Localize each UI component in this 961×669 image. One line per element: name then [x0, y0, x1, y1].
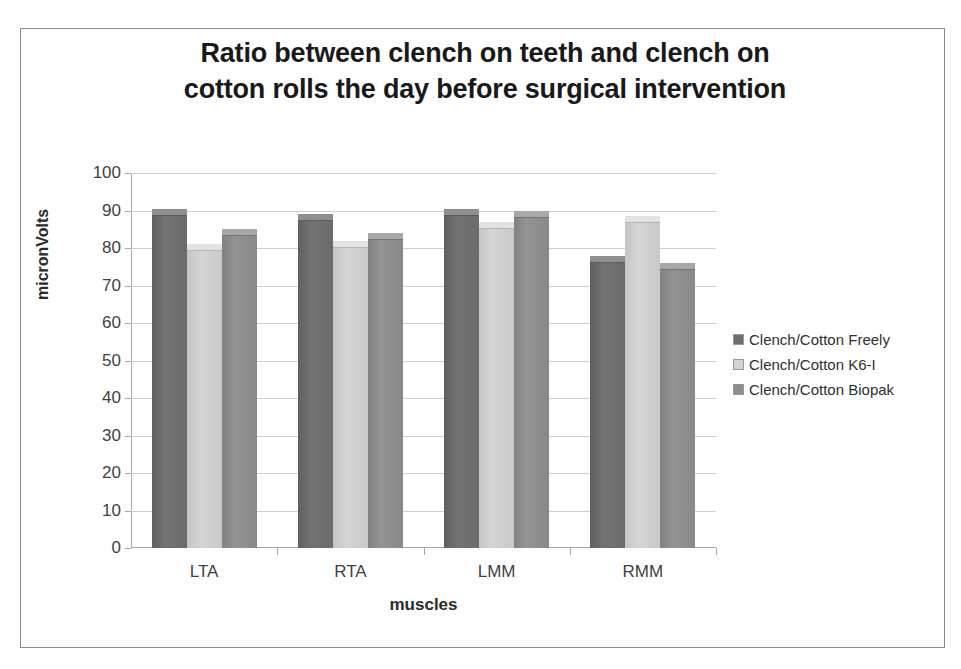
y-axis-tick-label: 10: [102, 501, 121, 521]
y-axis-tick-label: 40: [102, 388, 121, 408]
bar-group: [131, 173, 277, 548]
bar: [298, 214, 333, 548]
legend-label: Clench/Cotton K6-I: [749, 357, 876, 372]
bar-top-cap: [298, 214, 333, 221]
legend-swatch-icon: [733, 359, 744, 370]
bar-body: [660, 268, 695, 548]
y-axis-tick-label: 100: [93, 163, 121, 183]
x-axis-tick: [570, 548, 571, 555]
x-axis-tick: [424, 548, 425, 555]
legend-swatch-icon: [733, 384, 744, 395]
y-axis-tick-label: 70: [102, 276, 121, 296]
chart-figure: Ratio between clench on teeth and clench…: [0, 0, 961, 669]
bar: [514, 211, 549, 549]
chart-title-line-2: cotton rolls the day before surgical int…: [90, 72, 880, 108]
y-axis-tick-label: 90: [102, 201, 121, 221]
chart-legend: Clench/Cotton FreelyClench/Cotton K6-ICl…: [733, 332, 933, 407]
y-axis-tick: [125, 548, 131, 549]
bar-top-cap: [222, 229, 257, 236]
bar-body: [152, 214, 187, 548]
legend-item: Clench/Cotton Freely: [733, 332, 933, 347]
bar-body: [590, 261, 625, 549]
x-axis-category-label: RMM: [623, 562, 664, 582]
legend-label: Clench/Cotton Biopak: [749, 382, 894, 397]
bar-top-cap: [444, 209, 479, 216]
bar: [333, 241, 368, 549]
bar: [187, 244, 222, 548]
x-axis-tick: [716, 548, 717, 555]
y-axis-tick-label: 30: [102, 426, 121, 446]
bar-body: [625, 221, 660, 548]
legend-swatch-icon: [733, 334, 744, 345]
bar: [625, 216, 660, 548]
bar: [152, 209, 187, 548]
bar: [222, 229, 257, 548]
chart-title: Ratio between clench on teeth and clench…: [90, 36, 880, 107]
x-axis-tick: [277, 548, 278, 555]
y-axis-tick-label: 50: [102, 351, 121, 371]
x-axis-category-label: LTA: [190, 562, 219, 582]
x-axis-category-label: LMM: [478, 562, 516, 582]
bar-top-cap: [590, 256, 625, 263]
bar-body: [333, 246, 368, 549]
bar-body: [514, 216, 549, 549]
bar-top-cap: [152, 209, 187, 216]
y-axis-tick-label: 0: [112, 538, 121, 558]
y-axis-title: micronVolts: [34, 209, 52, 300]
y-axis-tick-label: 80: [102, 238, 121, 258]
bar-body: [298, 219, 333, 548]
bar-body: [479, 227, 514, 548]
bar-top-cap: [660, 263, 695, 270]
bar-top-cap: [187, 244, 222, 251]
bar-group: [277, 173, 423, 548]
legend-label: Clench/Cotton Freely: [749, 332, 890, 347]
bar-top-cap: [514, 211, 549, 218]
chart-title-line-1: Ratio between clench on teeth and clench…: [90, 36, 880, 72]
bar-body: [222, 234, 257, 548]
bar-body: [444, 214, 479, 548]
plot-area: 0102030405060708090100 LTARTALMMRMM: [131, 173, 716, 548]
bar-group: [570, 173, 716, 548]
legend-item: Clench/Cotton Biopak: [733, 382, 933, 397]
bar: [660, 263, 695, 548]
bar-group: [424, 173, 570, 548]
y-axis-tick-label: 20: [102, 463, 121, 483]
x-axis-category-label: RTA: [334, 562, 366, 582]
x-axis-title: muscles: [131, 595, 716, 615]
y-axis-tick-label: 60: [102, 313, 121, 333]
bar-top-cap: [625, 216, 660, 223]
bar-body: [187, 249, 222, 548]
bar-top-cap: [368, 233, 403, 240]
legend-item: Clench/Cotton K6-I: [733, 357, 933, 372]
bar-body: [368, 238, 403, 548]
bar: [479, 222, 514, 548]
bar: [590, 256, 625, 549]
bar: [444, 209, 479, 548]
bar-top-cap: [479, 222, 514, 229]
bar-top-cap: [333, 241, 368, 248]
bar: [368, 233, 403, 548]
